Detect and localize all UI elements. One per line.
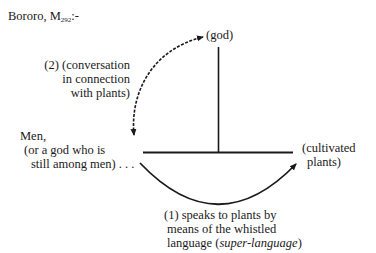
conversation-arrow [134,37,203,135]
label-speaks-line3-italic: super-language [219,236,297,250]
label-conversation-line1: (2) (conversation [20,58,130,72]
node-men: Men, (or a god who is still among men) .… [20,129,134,171]
label-speaks-line2: means of the whistled [164,222,302,236]
node-plants-line2: plants) [302,155,355,169]
label-speaks: (1) speaks to plants by means of the whi… [164,208,302,250]
label-conversation-line2: in connection [20,72,130,86]
node-men-line1: Men, [20,129,134,143]
node-plants: (cultivated plants) [302,141,355,169]
node-men-line3: still among men) . . . [20,157,134,171]
label-speaks-line3-plain: language ( [167,236,219,250]
label-speaks-line1: (1) speaks to plants by [164,208,302,222]
label-speaks-line3-end: ) [298,236,302,250]
node-god: (god) [206,28,233,42]
label-conversation: (2) (conversation in connection with pla… [20,58,130,100]
node-men-line2: (or a god who is [20,143,134,157]
node-plants-line1: (cultivated [302,141,355,155]
label-conversation-line3: with plants) [20,86,130,100]
label-speaks-line3: language (super-language) [164,236,302,250]
speaks-arrow [140,163,296,204]
